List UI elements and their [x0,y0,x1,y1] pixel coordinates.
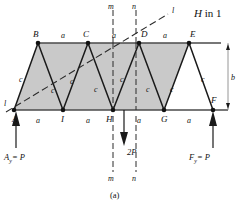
member-label-c-1: c [19,75,23,84]
reaction-label-Ay: Ay= P [3,152,25,164]
node-label-F: F [210,95,217,105]
top-dim-a-1: a [61,31,65,40]
reaction-label-Fy: Fy= P [188,152,210,164]
member-label-c-3: c [70,77,74,86]
heading-rest: in 1 [202,7,222,19]
node-label-I: I [60,114,65,124]
reaction-Ay-value: = P [12,152,25,162]
section-label-m-bottom: m [108,174,114,183]
node-dot-A [12,108,17,113]
member-label-c-4: c [94,85,98,94]
section-label-l-left: l [4,99,7,108]
section-label-n-bottom: n [132,174,136,183]
node-dot-D [137,41,142,46]
node-dot-E [187,41,192,46]
node-dot-G [162,108,167,113]
top-dim-a-2: a [112,31,116,40]
member-label-c-6: c [146,85,150,94]
truss-diagram-svg: B C D E A I H G F a a a a a a a c c c c … [0,0,236,224]
member-label-c-8: c [201,75,205,84]
heading-text: H in 1 [193,7,222,19]
section-label-m-top: m [108,2,114,11]
node-label-E: E [189,29,196,39]
node-label-G: G [161,114,168,124]
height-label-b: b [231,73,235,82]
node-dot-I [61,108,66,113]
node-label-C: C [83,29,90,39]
truss-figure: B C D E A I H G F a a a a a a a c c c c … [0,0,236,224]
section-label-n-top: n [132,2,136,11]
load-label-2P: 2P [127,147,136,157]
height-dim-arrow-top [226,44,230,50]
member-label-c-7: c [170,85,174,94]
bottom-dim-a-3: a [137,116,141,125]
node-dot-H [111,108,116,113]
bottom-dim-a-4: a [187,116,191,125]
node-dot-C [86,41,91,46]
section-label-l: l [172,6,175,15]
node-label-D: D [140,29,148,39]
top-dim-a-3: a [163,31,167,40]
load-2P-arrowhead [120,132,128,146]
height-dim-arrow-bottom [226,103,230,109]
bottom-dim-a-2: a [86,116,90,125]
figure-caption: (a) [110,190,120,200]
node-label-A: A [11,114,18,124]
reaction-Fy-arrowhead [209,111,217,126]
node-dot-B [36,41,41,46]
node-label-B: B [33,29,39,39]
bottom-dim-a-1: a [36,116,40,125]
member-label-c-2: c [51,86,55,95]
node-label-H: H [105,114,113,124]
reaction-Fy-value: = P [197,152,210,162]
member-label-c-5: c [120,75,124,84]
